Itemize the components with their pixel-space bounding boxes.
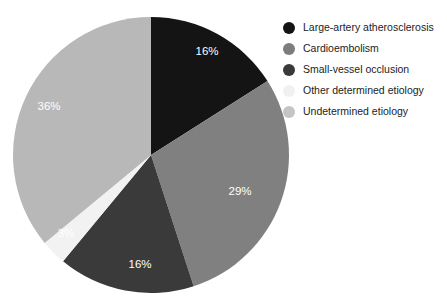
legend-item-label: Other determined etiology <box>303 85 424 96</box>
legend-item[interactable]: Small-vessel occlusion <box>283 59 447 80</box>
pie-slice-value-label: 29% <box>228 185 251 197</box>
pie-slice-value-label: 16% <box>195 45 218 57</box>
circle-swatch <box>283 43 295 55</box>
circle-swatch <box>283 64 295 76</box>
circle-swatch <box>283 22 295 34</box>
pie-slice-value-label: 36% <box>37 100 60 112</box>
legend-item[interactable]: Cardioembolism <box>283 38 447 59</box>
pie-chart-svg: 16%29%16%3%36% <box>0 0 302 302</box>
legend-item-label: Undetermined etiology <box>303 106 408 117</box>
legend-item[interactable]: Other determined etiology <box>283 80 447 101</box>
legend-item[interactable]: Undetermined etiology <box>283 101 447 122</box>
pie-chart-plot-area: 16%29%16%3%36% <box>0 0 302 302</box>
circle-swatch <box>283 106 295 118</box>
legend-item-label: Cardioembolism <box>303 43 379 54</box>
pie-slice-value-label: 16% <box>128 258 151 270</box>
legend-item-label: Small-vessel occlusion <box>303 64 409 75</box>
pie-slice-group <box>13 17 289 293</box>
legend-item[interactable]: Large-artery atherosclerosis <box>283 17 447 38</box>
legend-item-label: Large-artery atherosclerosis <box>303 22 434 33</box>
chart-legend: Large-artery atherosclerosisCardioemboli… <box>283 17 447 122</box>
circle-swatch <box>283 85 295 97</box>
pie-slice-value-label: 3% <box>58 227 75 239</box>
pie-chart-figure: 16%29%16%3%36% Large-artery atherosclero… <box>0 0 447 302</box>
